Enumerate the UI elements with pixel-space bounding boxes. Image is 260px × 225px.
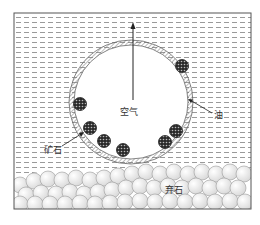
- gangue-pile: [12, 164, 253, 212]
- oil-label: 油: [214, 109, 223, 120]
- air-bubble: [69, 40, 193, 164]
- ore-label: 矿石: [44, 144, 62, 155]
- air-label: 空气: [120, 106, 138, 117]
- flotation-diagram: 空气 油 矿石 弃石: [0, 0, 260, 225]
- gangue-label: 弃石: [165, 184, 183, 195]
